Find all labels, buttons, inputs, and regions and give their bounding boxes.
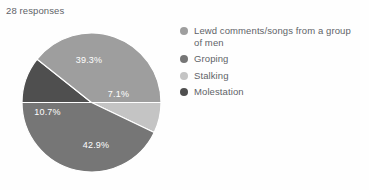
legend-item[interactable]: Stalking (180, 70, 360, 82)
legend-item-label: Lewd comments/songs from a group of men (194, 25, 354, 48)
pie-slice-value-label: 7.1% (108, 89, 129, 99)
legend-swatch-icon (180, 72, 188, 80)
legend-swatch-icon (180, 55, 188, 63)
pie-chart-card: 28 responses 7.1%42.9%10.7%39.3% Lewd co… (0, 0, 369, 190)
chart-legend: Lewd comments/songs from a group of menG… (180, 25, 360, 103)
legend-item[interactable]: Molestation (180, 86, 360, 98)
pie-slice-value-label: 10.7% (34, 107, 61, 117)
legend-swatch-icon (180, 27, 188, 35)
responses-count-label: 28 responses (6, 5, 64, 16)
legend-item-label: Stalking (194, 70, 229, 82)
pie-slice-group (22, 33, 161, 172)
legend-item[interactable]: Lewd comments/songs from a group of men (180, 25, 360, 48)
pie-svg: 7.1%42.9%10.7%39.3% (22, 33, 161, 172)
pie-chart-graphic: 7.1%42.9%10.7%39.3% (22, 33, 161, 172)
legend-item[interactable]: Groping (180, 53, 360, 65)
pie-slice-value-label: 42.9% (83, 140, 110, 150)
legend-item-label: Groping (194, 53, 229, 65)
legend-swatch-icon (180, 88, 188, 96)
legend-item-label: Molestation (194, 86, 244, 98)
pie-slice-value-label: 39.3% (76, 55, 103, 65)
